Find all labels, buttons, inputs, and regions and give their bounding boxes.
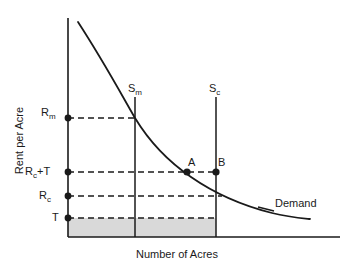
axis-dot-rm bbox=[65, 115, 72, 122]
axis-dot-rc bbox=[65, 193, 72, 200]
y-tick-label-rc-plus-t: Rc+T bbox=[25, 166, 50, 177]
point-label-b: B bbox=[218, 157, 225, 168]
y-axis-label: Rent per Acre bbox=[14, 81, 25, 201]
economics-supply-demand-figure: Rm Rc+T Rc T Sm Sc A B Demand Number of … bbox=[0, 0, 354, 274]
data-point-b bbox=[212, 168, 219, 175]
supply-label-sc: Sc bbox=[209, 83, 220, 94]
y-tick-label-rm: Rm bbox=[41, 107, 56, 118]
axis-dot-t bbox=[65, 215, 72, 222]
supply-label-sm: Sm bbox=[128, 83, 142, 94]
x-axis-label: Number of Acres bbox=[0, 249, 354, 260]
axis-dot-rc-plus-t bbox=[65, 169, 72, 176]
figure-canvas bbox=[0, 0, 354, 274]
demand-curve bbox=[78, 22, 310, 219]
demand-curve-label: Demand bbox=[275, 198, 317, 209]
point-label-a: A bbox=[188, 157, 195, 168]
data-point-a bbox=[183, 168, 190, 175]
shaded-tax-revenue-region bbox=[68, 218, 216, 237]
y-tick-label-t: T bbox=[52, 212, 59, 223]
y-tick-label-rc: Rc bbox=[39, 190, 51, 201]
